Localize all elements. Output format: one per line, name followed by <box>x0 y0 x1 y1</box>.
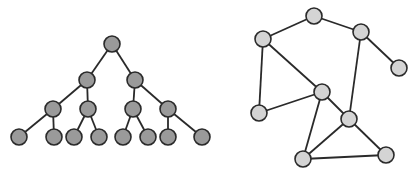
graph-node <box>378 147 394 163</box>
tree-diagram <box>11 36 210 145</box>
graph-node <box>255 31 271 47</box>
tree-node <box>104 36 120 52</box>
diagram-canvas <box>0 0 416 172</box>
graph-node <box>341 111 357 127</box>
tree-node <box>46 129 62 145</box>
graph-node <box>251 105 267 121</box>
tree-node <box>45 101 61 117</box>
tree-node <box>125 101 141 117</box>
tree-node <box>115 129 131 145</box>
tree-node <box>91 129 107 145</box>
tree-node <box>160 101 176 117</box>
graph-edge <box>303 92 322 159</box>
tree-node <box>11 129 27 145</box>
graph-node <box>314 84 330 100</box>
tree-node <box>80 101 96 117</box>
graph-edge <box>259 39 263 113</box>
graph-edge <box>263 39 322 92</box>
graph-nodes <box>251 8 407 167</box>
graph-node <box>295 151 311 167</box>
graph-diagram <box>251 8 407 167</box>
diagram-svg <box>0 0 416 172</box>
tree-node <box>140 129 156 145</box>
tree-node <box>194 129 210 145</box>
tree-node <box>160 129 176 145</box>
graph-node <box>306 8 322 24</box>
tree-node <box>66 129 82 145</box>
graph-edge <box>303 119 349 159</box>
tree-nodes <box>11 36 210 145</box>
graph-edge <box>349 32 361 119</box>
tree-node <box>79 72 95 88</box>
tree-node <box>127 72 143 88</box>
graph-node <box>353 24 369 40</box>
tree-edges <box>19 44 202 137</box>
graph-node <box>391 60 407 76</box>
graph-edge <box>303 155 386 159</box>
graph-edge <box>259 92 322 113</box>
